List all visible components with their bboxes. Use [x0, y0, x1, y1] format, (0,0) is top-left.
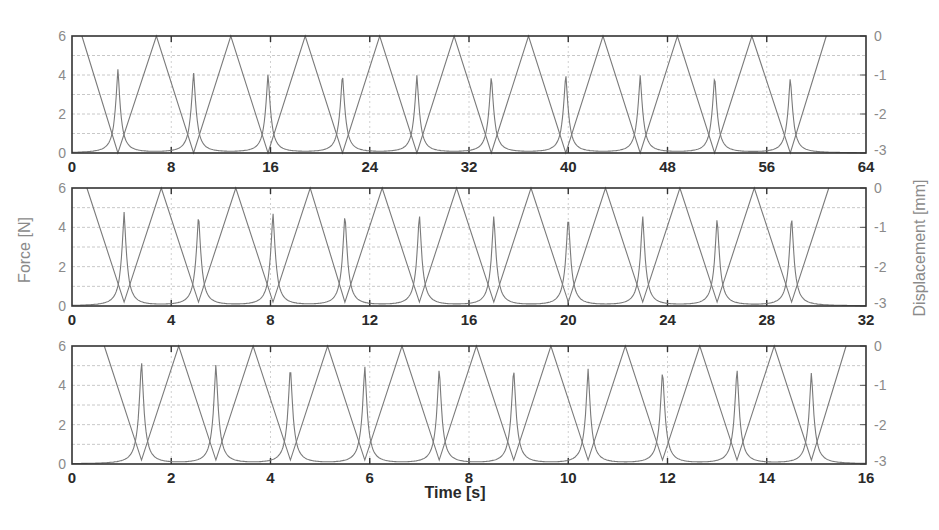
x-tick-label: 2: [167, 469, 175, 486]
y-tick-label-left: 0: [58, 298, 66, 314]
y-tick-label-right: -3: [874, 295, 887, 311]
y-tick-label-right: -3: [874, 142, 887, 158]
chart-panel-3: 02468101214160246-3-2-10: [58, 338, 886, 486]
x-tick-label: 8: [266, 311, 274, 328]
y-tick-label-right: -2: [874, 417, 887, 433]
y-tick-label-left: 4: [58, 219, 66, 235]
x-tick-label: 24: [659, 311, 676, 328]
y-tick-label-right: -2: [874, 259, 887, 275]
y-tick-label-right: -1: [874, 67, 887, 83]
y-tick-label-left: 6: [58, 180, 66, 196]
x-tick-label: 48: [659, 158, 676, 175]
y-tick-label-left: 0: [58, 145, 66, 161]
x-tick-label: 0: [68, 158, 76, 175]
x-tick-label: 8: [167, 158, 175, 175]
y-tick-label-left: 4: [58, 377, 66, 393]
chart-panel-2: 0481216202428320246-3-2-10: [58, 180, 886, 328]
displacement-line: [87, 188, 829, 302]
chart-panel-1: 08162432404856640246-3-2-10: [58, 28, 886, 175]
y-tick-label-right: -1: [874, 377, 887, 393]
x-tick-label: 16: [461, 311, 478, 328]
x-tick-label: 56: [758, 158, 775, 175]
x-tick-label: 10: [560, 469, 577, 486]
y-tick-label-left: 0: [58, 456, 66, 472]
panels: 08162432404856640246-3-2-100481216202428…: [58, 28, 886, 486]
y-tick-label-right: 0: [874, 338, 882, 354]
x-tick-label: 6: [366, 469, 374, 486]
y-tick-label-right: 0: [874, 180, 882, 196]
force-displacement-figure: 08162432404856640246-3-2-100481216202428…: [0, 0, 939, 530]
x-tick-label: 4: [167, 311, 176, 328]
y-axis-label-left: Force [N]: [16, 217, 33, 283]
x-tick-label: 32: [858, 311, 875, 328]
x-tick-label: 28: [758, 311, 775, 328]
y-tick-label-left: 2: [58, 106, 66, 122]
y-tick-label-left: 2: [58, 259, 66, 275]
x-tick-label: 20: [560, 311, 577, 328]
y-tick-label-left: 6: [58, 28, 66, 44]
y-tick-label-left: 6: [58, 338, 66, 354]
x-tick-label: 16: [262, 158, 279, 175]
x-tick-label: 12: [659, 469, 676, 486]
x-tick-label: 0: [68, 469, 76, 486]
x-tick-label: 32: [461, 158, 478, 175]
y-axis-label-right: Displacement [mm]: [911, 180, 928, 317]
x-tick-label: 12: [361, 311, 378, 328]
x-tick-label: 64: [858, 158, 875, 175]
y-tick-label-left: 4: [58, 67, 66, 83]
x-tick-label: 14: [758, 469, 775, 486]
y-tick-label-right: -1: [874, 219, 887, 235]
y-tick-label-right: 0: [874, 28, 882, 44]
y-tick-label-right: -3: [874, 453, 887, 469]
y-tick-label-left: 2: [58, 417, 66, 433]
x-tick-label: 0: [68, 311, 76, 328]
x-tick-label: 24: [361, 158, 378, 175]
x-tick-label: 4: [266, 469, 275, 486]
x-axis-label: Time [s]: [424, 484, 485, 501]
force-line: [72, 363, 866, 463]
x-tick-label: 16: [858, 469, 875, 486]
y-tick-label-right: -2: [874, 106, 887, 122]
x-tick-label: 40: [560, 158, 577, 175]
